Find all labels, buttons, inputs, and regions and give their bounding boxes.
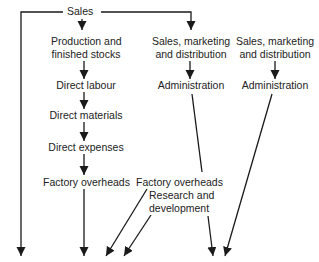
node-factory-overheads-2: Factory overheads bbox=[135, 176, 223, 189]
node-administration-1: Administration bbox=[147, 79, 235, 92]
cost-flow-diagram: Sales Production and finished stocks Dir… bbox=[0, 0, 319, 262]
node-production-line2: finished stocks bbox=[50, 48, 122, 61]
node-direct-materials: Direct materials bbox=[42, 109, 130, 122]
node-sales-marketing-2-line2: and distribution bbox=[231, 48, 319, 61]
node-research-development-line1: Research and bbox=[148, 189, 216, 202]
node-direct-expenses: Direct expenses bbox=[42, 141, 130, 154]
node-research-development-line2: development bbox=[148, 202, 216, 215]
node-factory-overheads-1: Factory overheads bbox=[42, 176, 130, 189]
node-sales-marketing-1-line2: and distribution bbox=[147, 48, 235, 61]
node-sales: Sales bbox=[66, 5, 94, 18]
node-administration-2: Administration bbox=[231, 79, 319, 92]
node-direct-labour: Direct labour bbox=[50, 79, 122, 92]
node-production-line1: Production and bbox=[50, 35, 122, 48]
node-sales-marketing-1-line1: Sales, marketing bbox=[147, 35, 235, 48]
node-sales-marketing-2-line1: Sales, marketing bbox=[231, 35, 319, 48]
